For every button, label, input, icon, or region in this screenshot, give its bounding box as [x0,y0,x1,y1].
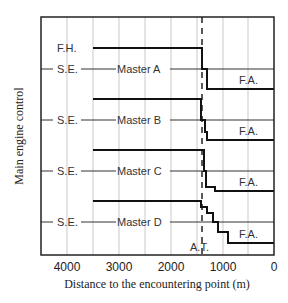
chart: F.H. S.E. S.E. S.E. S.E. Master A Master… [0,0,288,303]
x-tick-3000: 3000 [106,260,133,274]
master-b-label: Master B [117,114,161,126]
se-label-b: S.E. [57,114,78,126]
fa-label-b: F.A. [239,125,258,137]
se-label-a: S.E. [57,63,78,75]
fa-label-a: F.A. [239,74,258,86]
master-d-label: Master D [117,216,162,228]
x-tick-1000: 1000 [210,260,237,274]
fa-label-d: F.A. [239,228,258,240]
x-tick-0: 0 [271,260,278,274]
x-tick-4000: 4000 [54,260,81,274]
x-axis-title: Distance to the encountering point (m) [64,277,250,291]
y-axis-title: Main engine control [12,87,26,185]
se-label-d: S.E. [57,216,78,228]
fa-label-c: F.A. [239,176,258,188]
at-label: A.T. [190,241,209,253]
x-tick-2000: 2000 [158,260,185,274]
master-a-label: Master A [117,63,161,75]
master-c-label: Master C [117,165,162,177]
fh-label: F.H. [57,42,77,54]
se-label-c: S.E. [57,165,78,177]
se-lines [41,69,274,222]
